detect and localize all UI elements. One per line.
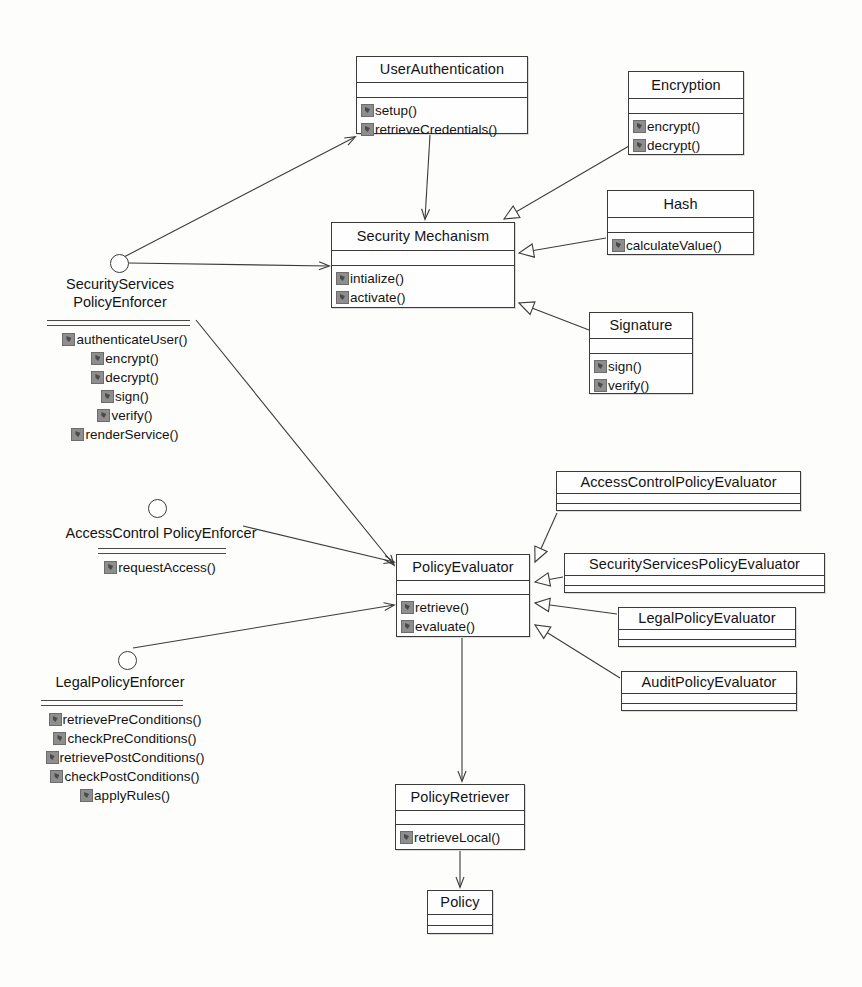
operation-label: requestAccess(): [118, 558, 216, 577]
operation-row: verify(): [45, 406, 205, 425]
operation-row: retrievePreConditions(): [40, 710, 210, 729]
uml-class-security-services-policy-evaluator[interactable]: SecurityServicesPolicyEvaluator: [564, 553, 825, 593]
class-operations-compartment: [565, 586, 824, 594]
uml-class-hash[interactable]: HashcalculateValue(): [607, 190, 754, 255]
operation-row: decrypt(): [633, 136, 739, 155]
class-operations-compartment: [557, 504, 800, 512]
provided-interface-lollipop-icon[interactable]: [118, 651, 137, 670]
operation-method-icon: [53, 732, 66, 745]
operation-method-icon: [401, 620, 414, 633]
class-operations-compartment: intialize()activate(): [332, 266, 514, 312]
edge-lpe-to-policyevaluator: [535, 603, 617, 614]
operation-row: applyRules(): [40, 786, 210, 805]
class-attributes-compartment: [565, 576, 824, 586]
class-attributes-compartment: [622, 694, 796, 704]
operation-row: calculateValue(): [612, 236, 749, 255]
separator-line: [47, 325, 190, 326]
operation-label: evaluate(): [415, 617, 475, 636]
operation-row: decrypt(): [45, 368, 205, 387]
class-name: UserAuthentication: [357, 57, 527, 83]
operation-label: retrieveLocal(): [414, 828, 500, 847]
class-attributes-compartment: [590, 339, 692, 354]
operation-label: intialize(): [350, 269, 404, 288]
operation-method-icon: [91, 352, 104, 365]
operation-label: verify(): [111, 406, 152, 425]
edge-acpe-to-policyevaluator: [535, 513, 557, 562]
uml-class-user-authentication[interactable]: UserAuthenticationsetup()retrieveCredent…: [356, 56, 528, 134]
uml-diagram-canvas: UserAuthenticationsetup()retrieveCredent…: [0, 0, 862, 987]
uml-class-signature[interactable]: Signaturesign()verify(): [589, 312, 693, 394]
class-attributes-compartment: [557, 494, 800, 504]
operation-row: encrypt(): [45, 349, 205, 368]
operation-row: renderService(): [45, 425, 205, 444]
separator-line: [41, 705, 183, 706]
operation-method-icon: [80, 789, 93, 802]
edge-legalenforcer-to-policyevaluator: [133, 605, 394, 648]
operation-method-icon: [50, 770, 63, 783]
separator-line: [47, 320, 190, 321]
class-operations-compartment: sign()verify(): [590, 354, 692, 400]
class-name: SecurityServicesPolicyEvaluator: [565, 554, 824, 576]
operation-label: sign(): [115, 387, 149, 406]
class-name: Hash: [608, 191, 753, 218]
operation-method-icon: [612, 239, 625, 252]
operation-row: setup(): [361, 101, 523, 120]
operation-method-icon: [336, 272, 349, 285]
operation-label: encrypt(): [105, 349, 158, 368]
separator-line: [98, 553, 226, 554]
class-attributes-compartment: [629, 99, 743, 114]
class-attributes-compartment: [332, 251, 514, 266]
operation-row: retrieveCredentials(): [361, 120, 523, 139]
operation-label: retrievePreConditions(): [63, 710, 202, 729]
operation-method-icon: [49, 713, 62, 726]
uml-class-security-mechanism[interactable]: Security Mechanismintialize()activate(): [331, 222, 515, 308]
operation-label: decrypt(): [105, 368, 158, 387]
uml-class-policy-retriever[interactable]: PolicyRetrieverretrieveLocal(): [395, 784, 525, 850]
class-name: PolicyEvaluator: [397, 555, 529, 581]
operation-row: authenticateUser(): [45, 330, 205, 349]
operation-method-icon: [91, 371, 104, 384]
operation-label: calculateValue(): [626, 236, 722, 255]
operation-label: sign(): [608, 357, 642, 376]
operation-method-icon: [97, 409, 110, 422]
operation-row: encrypt(): [633, 117, 739, 136]
operation-row: activate(): [336, 288, 510, 307]
uml-class-legal-policy-evaluator[interactable]: LegalPolicyEvaluator: [618, 607, 796, 647]
separator-line: [98, 548, 226, 549]
edge-signature-to-securitymechanism: [519, 303, 589, 330]
operation-method-icon: [633, 139, 646, 152]
class-name: Security Mechanism: [332, 223, 514, 251]
edge-userauth-to-securitymechanism: [425, 135, 430, 219]
uml-class-encryption[interactable]: Encryptionencrypt()decrypt(): [628, 71, 744, 155]
uml-class-audit-policy-evaluator[interactable]: AuditPolicyEvaluator: [621, 671, 797, 711]
class-attributes-compartment: [357, 83, 527, 98]
uml-class-policy-evaluator[interactable]: PolicyEvaluatorretrieve()evaluate(): [396, 554, 530, 637]
uml-class-access-control-policy-evaluator[interactable]: AccessControlPolicyEvaluator: [556, 471, 801, 511]
class-operations-compartment: [619, 640, 795, 648]
operation-row: sign(): [594, 357, 688, 376]
interface-compartment-separators: [41, 700, 183, 706]
operation-method-icon: [400, 831, 413, 844]
class-operations-compartment: encrypt()decrypt(): [629, 114, 743, 160]
interface-name: LegalPolicyEnforcer: [35, 673, 205, 691]
operation-method-icon: [104, 561, 117, 574]
interface-compartment-separators: [98, 548, 226, 554]
uml-class-policy[interactable]: Policy: [427, 890, 493, 934]
operation-label: retrieve(): [415, 598, 469, 617]
provided-interface-lollipop-icon[interactable]: [148, 499, 167, 518]
operation-method-icon: [71, 428, 84, 441]
class-operations-compartment: [622, 704, 796, 712]
interface-operations-list: retrievePreConditions()checkPreCondition…: [40, 710, 210, 805]
edge-ape-to-policyevaluator: [535, 625, 620, 678]
operation-row: evaluate(): [401, 617, 525, 636]
operation-label: authenticateUser(): [76, 330, 187, 349]
operation-method-icon: [336, 291, 349, 304]
interface-operations-list: requestAccess(): [85, 558, 235, 577]
provided-interface-lollipop-icon[interactable]: [110, 254, 129, 273]
operation-label: encrypt(): [647, 117, 700, 136]
class-attributes-compartment: [619, 630, 795, 640]
class-name: AccessControlPolicyEvaluator: [557, 472, 800, 494]
class-operations-compartment: retrieveLocal(): [396, 825, 524, 852]
operation-row: checkPreConditions(): [40, 729, 210, 748]
class-operations-compartment: setup()retrieveCredentials(): [357, 98, 527, 144]
